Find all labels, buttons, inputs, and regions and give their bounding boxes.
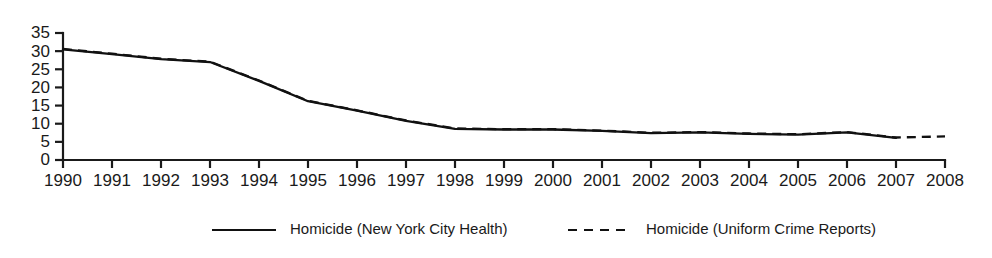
y-axis-tick-label: 30: [31, 42, 50, 61]
x-axis-tick-label: 2008: [926, 171, 964, 190]
x-axis: 1990199119921993199419951996199719981999…: [44, 160, 964, 190]
x-axis-tick-label: 1998: [436, 171, 474, 190]
legend-label: Homicide (New York City Health): [290, 220, 508, 237]
x-axis-tick-label: 1997: [387, 171, 425, 190]
y-axis-tick-label: 20: [31, 78, 50, 97]
legend-label: Homicide (Uniform Crime Reports): [646, 220, 876, 237]
y-axis: 05101520253035: [31, 23, 63, 169]
data-series-group: [63, 49, 945, 138]
x-axis-tick-label: 2000: [534, 171, 572, 190]
x-axis-tick-label: 1992: [142, 171, 180, 190]
x-axis-tick-label: 1994: [240, 171, 278, 190]
y-axis-tick-label: 15: [31, 96, 50, 115]
x-axis-tick-label: 1993: [191, 171, 229, 190]
chart-figure: 05101520253035 1990199119921993199419951…: [0, 0, 992, 258]
y-axis-tick-label: 25: [31, 60, 50, 79]
x-axis-tick-label: 2005: [779, 171, 817, 190]
x-axis-tick-label: 2002: [632, 171, 670, 190]
y-axis-tick-label: 5: [41, 132, 50, 151]
x-axis-tick-label: 1996: [338, 171, 376, 190]
y-axis-tick-label: 10: [31, 114, 50, 133]
series-line-solid: [63, 49, 896, 138]
x-axis-tick-label: 1990: [44, 171, 82, 190]
chart-legend: Homicide (New York City Health)Homicide …: [212, 220, 876, 237]
x-axis-tick-label: 2004: [730, 171, 768, 190]
y-axis-tick-label: 0: [41, 150, 50, 169]
x-axis-tick-label: 1991: [93, 171, 131, 190]
x-axis-tick-label: 1995: [289, 171, 327, 190]
x-axis-tick-label: 1999: [485, 171, 523, 190]
x-axis-tick-label: 2007: [877, 171, 915, 190]
y-axis-tick-label: 35: [31, 23, 50, 42]
line-chart: 05101520253035 1990199119921993199419951…: [0, 0, 992, 258]
x-axis-tick-label: 2003: [681, 171, 719, 190]
x-axis-tick-label: 2001: [583, 171, 621, 190]
x-axis-tick-label: 2006: [828, 171, 866, 190]
